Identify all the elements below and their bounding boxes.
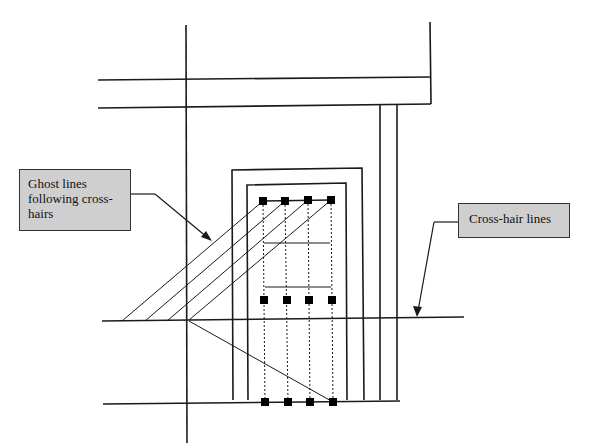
cross-hair-callout: Cross-hair lines [458, 203, 570, 238]
cross-hair-label: Cross-hair lines [469, 211, 551, 226]
marker-top [304, 196, 312, 204]
projection-line [189, 321, 333, 402]
marker-middle [305, 296, 313, 304]
cross-arrowhead-icon [413, 306, 422, 317]
door-outer-frame [232, 168, 364, 400]
vertical-crosshair-line [186, 25, 187, 443]
horizontal-crosshair-line [102, 317, 464, 321]
marker-bottom [306, 398, 314, 406]
upper-wall-line-2 [98, 104, 431, 108]
marker-top [327, 196, 335, 204]
marker-bottom [261, 398, 269, 406]
door-inner-frame [247, 183, 347, 400]
ghost-arrowhead-icon [201, 231, 212, 241]
ghost-lines-label: Ghost lines following cross-hairs [28, 176, 113, 221]
top-marker-connector [263, 200, 331, 201]
marker-middle [260, 296, 268, 304]
marker-top [259, 197, 267, 205]
ghost-lines [122, 200, 331, 321]
cross-callout-arrow-line [418, 222, 434, 311]
upper-wall-line-1 [98, 77, 430, 80]
ghost-callout-arrow-line [155, 194, 208, 238]
marker-bottom [284, 398, 292, 406]
ghost-lines-callout: Ghost lines following cross-hairs [19, 169, 131, 231]
ghost-line [122, 201, 263, 321]
marker-middle [283, 296, 291, 304]
marker-bottom [329, 398, 337, 406]
right-wall-edge [430, 22, 431, 104]
marker-top [281, 197, 289, 205]
marker-middle [328, 296, 336, 304]
dotted-guides [263, 200, 333, 402]
ground-line [103, 401, 400, 404]
